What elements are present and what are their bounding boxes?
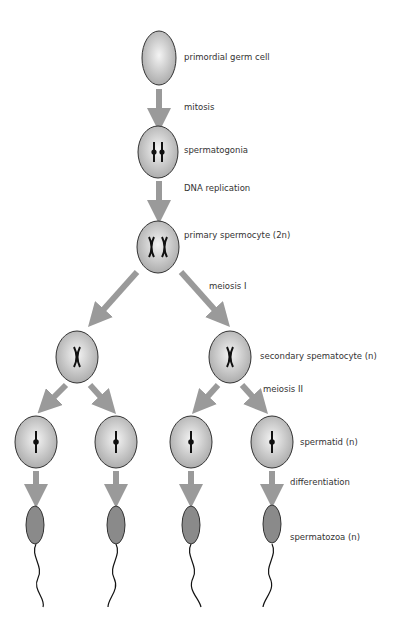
label-meiosis-1: meiosis I [209,281,247,291]
sperm-1 [26,506,44,607]
arrow-meiosis2-1 [46,385,66,405]
label-primary-spermocyte: primary spermocyte (2n) [184,230,290,240]
arrow-meiosis2-3 [200,385,218,405]
spermatogenesis-diagram: primordial germ cell mitosis spermatogon… [0,0,393,642]
spermatozoa [26,505,281,607]
label-meiosis-2: meiosis II [263,384,303,394]
arrow-meiosis2-4 [242,385,260,405]
diagram-canvas [0,0,393,642]
primary-spermocyte-cell [137,221,179,273]
label-spermatid: spermatid (n) [300,437,358,447]
spermatogonia-cell [138,126,178,178]
sperm-4 [263,505,281,607]
label-mitosis: mitosis [184,102,214,112]
label-spermatogonia: spermatogonia [184,145,248,155]
arrow-meiosis1-right [181,272,222,318]
label-primordial-germ-cell: primordial germ cell [184,52,270,62]
label-differentiation: differentiation [290,477,350,487]
label-secondary-spermatocyte: secondary spematocyte (n) [260,351,377,361]
arrow-meiosis1-left [96,272,137,318]
label-spermatozoa: spermatozoa (n) [290,532,360,542]
primordial-germ-cell [142,31,176,85]
sperm-2 [107,506,125,607]
arrow-meiosis2-2 [90,385,108,405]
label-dna-replication: DNA replication [184,183,250,193]
sperm-3 [182,506,201,607]
